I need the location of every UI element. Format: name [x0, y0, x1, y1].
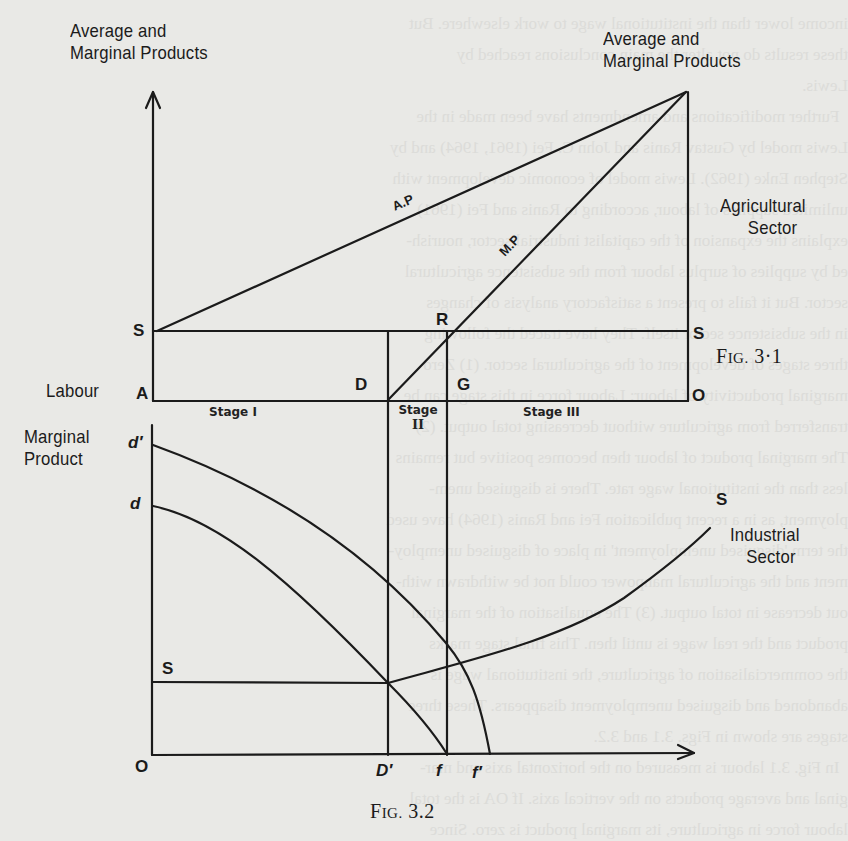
- labour-axis-label: Labour: [46, 380, 99, 402]
- axis-title-line: Marginal: [24, 426, 90, 448]
- point-s-top-left: S: [133, 321, 144, 341]
- caption-smallcaps: IG.: [728, 350, 749, 366]
- point-s-top-right: S: [693, 324, 704, 344]
- axis-title-line: Product: [24, 448, 90, 470]
- point-r: R: [436, 310, 448, 330]
- sector-label-line: Agricultural: [720, 195, 806, 217]
- industrial-supply-curve: [388, 528, 710, 683]
- stage-3-label: Stage III: [523, 405, 580, 419]
- stage-2-label: Stage II: [395, 403, 441, 432]
- figure-3-1-caption: FIG. 3·1: [716, 345, 782, 368]
- marginal-product-axis-title: Marginal Product: [24, 426, 90, 470]
- figure-3-2-caption: FIG. 3.2: [370, 800, 435, 823]
- sector-label-line: Industrial: [730, 524, 800, 546]
- point-f-prime: f′: [472, 763, 482, 783]
- caption-smallcaps: IG.: [382, 805, 403, 821]
- caption-number: 3·1: [754, 345, 782, 367]
- axis-title-line: Marginal Products: [603, 50, 741, 72]
- top-left-axis-title: Average and Marginal Products: [70, 20, 208, 64]
- point-g: G: [457, 375, 470, 395]
- point-d-prime-upper: D′: [376, 761, 392, 781]
- average-product-line: [157, 92, 686, 331]
- point-o-top: O: [692, 386, 705, 406]
- d-mpl-curve: [153, 506, 447, 754]
- caption-number: 3.2: [408, 800, 435, 822]
- point-d-lower: d: [130, 494, 140, 514]
- industrial-sector-label: Industrial Sector: [730, 524, 800, 568]
- sector-label-line: Sector: [730, 546, 800, 568]
- point-s-industrial: S: [716, 490, 727, 510]
- point-d: D: [355, 375, 367, 395]
- point-f: f: [436, 761, 442, 781]
- d-prime-mpl-curve: [153, 445, 490, 754]
- axis-title-line: Average and: [70, 20, 208, 42]
- sector-label-line: Sector: [720, 217, 806, 239]
- caption-prefix: F: [370, 800, 382, 822]
- stage-1-label: Stage I: [209, 405, 257, 419]
- top-right-axis-title: Average and Marginal Products: [603, 28, 741, 72]
- agricultural-sector-label: Agricultural Sector: [720, 195, 806, 239]
- bottom-wage-line: [152, 682, 388, 683]
- axis-title-line: Average and: [603, 28, 741, 50]
- bottom-x-axis: [152, 753, 694, 755]
- point-a: A: [136, 384, 148, 404]
- textbook-page: income lower than the institutional wage…: [0, 0, 848, 841]
- caption-prefix: F: [716, 345, 728, 367]
- point-s-bottom: S: [162, 659, 173, 679]
- stage-2-numeral: II: [395, 417, 441, 432]
- axis-title-line: Marginal Products: [70, 42, 208, 64]
- marginal-product-line: [388, 92, 686, 400]
- stage-2-line: Stage: [395, 403, 441, 417]
- point-o-bottom: O: [135, 757, 148, 777]
- point-d-prime: d′: [128, 433, 142, 453]
